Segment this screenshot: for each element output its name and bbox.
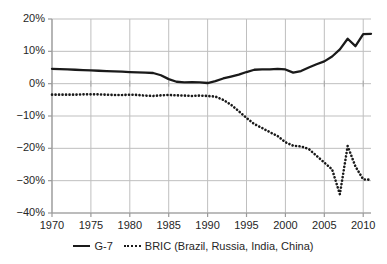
series-line-g-7 [52, 34, 371, 83]
x-tick-label: 1985 [149, 219, 189, 231]
y-tick-label: −10% [0, 109, 45, 121]
x-tick-label: 1980 [110, 219, 150, 231]
series-line-bric [52, 94, 371, 194]
legend-line-dotted-icon [124, 245, 141, 247]
x-tick-label: 1995 [227, 219, 267, 231]
legend-item-g7: G-7 [73, 240, 112, 252]
y-tick-label: 10% [0, 44, 45, 56]
y-tick-label: −30% [0, 174, 45, 186]
x-tick-label: 2010 [343, 219, 383, 231]
chart-legend: G-7 BRIC (Brazil, Russia, India, China) [0, 240, 387, 252]
legend-label-g7: G-7 [94, 240, 112, 252]
y-tick-label: −40% [0, 206, 45, 218]
x-tick-label: 2000 [265, 219, 305, 231]
x-tick-label: 1970 [32, 219, 72, 231]
x-tick-label: 1975 [71, 219, 111, 231]
legend-label-bric: BRIC (Brazil, Russia, India, China) [145, 240, 314, 252]
y-tick-label: 20% [0, 12, 45, 24]
legend-item-bric: BRIC (Brazil, Russia, India, China) [124, 240, 314, 252]
y-tick-label: −20% [0, 141, 45, 153]
x-tick-label: 2005 [304, 219, 344, 231]
legend-line-solid-icon [73, 245, 90, 247]
chart-container: 20%10%0%−10%−20%−30%−40% 197019751980198… [0, 0, 387, 264]
x-tick-label: 1990 [188, 219, 228, 231]
y-tick-label: 0% [0, 77, 45, 89]
